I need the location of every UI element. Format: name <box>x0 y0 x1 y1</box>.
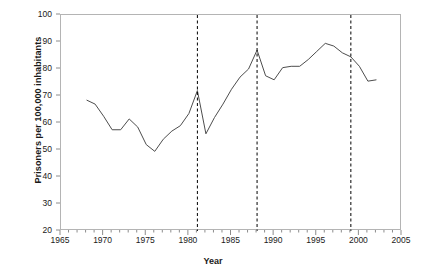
x-tick-label: 1990 <box>253 236 293 245</box>
x-tick-label: 1980 <box>168 236 208 245</box>
x-tick-label: 1995 <box>296 236 336 245</box>
prisoner-rate-line <box>87 43 377 151</box>
chart-container: Prisoners per 100,000 inhabitants Year 1… <box>0 0 426 278</box>
y-tick-label: 100 <box>18 10 52 19</box>
y-tick-label: 40 <box>18 172 52 181</box>
x-axis-title: Year <box>0 256 426 266</box>
x-tick-label: 2000 <box>338 236 378 245</box>
y-tick-label: 50 <box>18 145 52 154</box>
y-tick-label: 20 <box>18 226 52 235</box>
y-tick-label: 90 <box>18 37 52 46</box>
x-tick-label: 2005 <box>381 236 421 245</box>
x-tick-label: 1970 <box>83 236 123 245</box>
x-tick-label: 1965 <box>40 236 80 245</box>
y-tick-label: 70 <box>18 91 52 100</box>
y-tick-label: 60 <box>18 118 52 127</box>
y-tick-label: 30 <box>18 199 52 208</box>
event-lines-group <box>197 15 350 231</box>
x-tick-label: 1985 <box>211 236 251 245</box>
y-tick-label: 80 <box>18 64 52 73</box>
series-svg <box>61 15 402 231</box>
x-tick-label: 1975 <box>125 236 165 245</box>
plot-area <box>60 14 401 230</box>
